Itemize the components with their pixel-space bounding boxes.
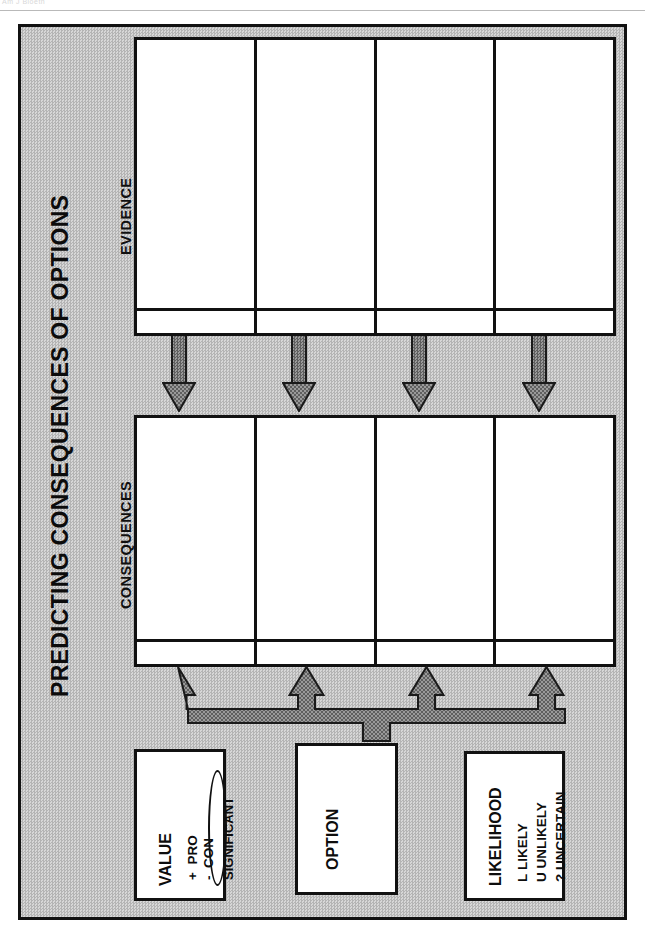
evidence-footer-cell[interactable] [496,311,613,333]
consequences-footer-cell[interactable] [137,642,257,664]
option-to-consequences-manifold [131,665,623,743]
likelihood-unlikely-symbol: U [534,872,549,882]
evidence-cell[interactable] [137,40,257,308]
page-header-text: Am J Bioeth [2,0,45,5]
value-pro-symbol: + [185,872,200,880]
evidence-footer-cell[interactable] [257,311,377,333]
arrow-shaft [531,336,547,384]
likelihood-entry-unlikely: U UNLIKELY [534,802,549,882]
value-legend-box[interactable]: VALUE + PRO - CON SIGNIFICANT [134,749,226,901]
arrow-head-down-icon [162,382,196,412]
section-label-evidence: EVIDENCE [118,178,134,255]
evidence-grid-footer [137,308,613,333]
consequences-cell[interactable] [137,418,257,639]
header-divider-rule [0,10,645,11]
diagram-page: Am J Bioeth PREDICTING CONSEQUENCES OF O… [0,0,645,939]
arrow-head-down-icon [282,382,316,412]
section-label-consequences: CONSEQUENCES [118,481,134,609]
likelihood-uncertain-label: UNCERTAIN [553,791,568,870]
evidence-to-consequences-arrow [522,336,556,412]
likelihood-likely-symbol: L [515,874,530,882]
consequences-cell[interactable] [377,418,497,639]
page-header-strip: Am J Bioeth [0,0,645,9]
consequences-footer-cell[interactable] [496,642,613,664]
evidence-footer-cell[interactable] [137,311,257,333]
consequences-grid [134,415,616,667]
evidence-grid [134,37,616,336]
evidence-cell[interactable] [496,40,613,308]
poster-frame: PREDICTING CONSEQUENCES OF OPTIONS EVIDE… [18,24,627,920]
consequences-cell[interactable] [496,418,613,639]
consequences-grid-body [137,418,613,639]
evidence-grid-body [137,40,613,308]
likelihood-legend-box[interactable]: LIKELIHOOD L LIKELY U UNLIKELY ? UNCERTA… [464,751,565,901]
likelihood-entry-uncertain: ? UNCERTAIN [553,791,568,882]
value-legend-entry-pro: + PRO [185,835,200,880]
consequences-cell[interactable] [257,418,377,639]
arrow-shaft [411,336,427,384]
likelihood-uncertain-symbol: ? [553,874,568,882]
likelihood-likely-label: LIKELY [515,823,530,870]
evidence-cell[interactable] [377,40,497,308]
evidence-to-consequences-arrow [282,336,316,412]
evidence-to-consequences-arrow [402,336,436,412]
consequences-grid-footer [137,639,613,664]
evidence-footer-cell[interactable] [377,311,497,333]
arrow-shaft [171,336,187,384]
arrow-head-down-icon [522,382,556,412]
likelihood-entry-likely: L LIKELY [515,823,530,882]
arrow-shaft [291,336,307,384]
value-legend-title: VALUE [157,833,175,886]
value-legend-highlight: SIGNIFICANT [221,797,236,880]
evidence-cell[interactable] [257,40,377,308]
option-box-title: OPTION [324,809,342,870]
evidence-to-consequences-arrow [162,336,196,412]
option-box[interactable]: OPTION [295,743,398,895]
arrow-head-down-icon [402,382,436,412]
consequences-footer-cell[interactable] [257,642,377,664]
likelihood-legend-title: LIKELIHOOD [487,787,505,886]
consequences-footer-cell[interactable] [377,642,497,664]
page-title: PREDICTING CONSEQUENCES OF OPTIONS [47,227,74,697]
value-pro-label: PRO [185,835,200,864]
likelihood-unlikely-label: UNLIKELY [534,802,549,868]
